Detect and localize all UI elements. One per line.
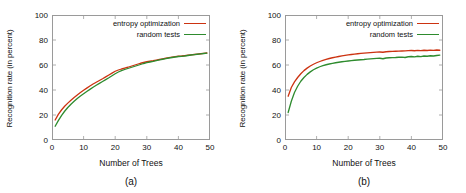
x-tick-label: 20: [111, 143, 120, 152]
x-axis-label-b: Number of Trees: [285, 158, 443, 168]
legend-label: random tests: [370, 30, 413, 39]
y-tick-label: 20: [39, 111, 48, 120]
y-axis-label-a: Recognition rate (in percent): [2, 18, 16, 138]
y-tick-label: 100: [35, 11, 48, 20]
y-tick-label: 80: [272, 36, 281, 45]
legend-entry: random tests: [137, 30, 206, 39]
legend-label: entropy optimization: [346, 19, 413, 28]
series-line-entropy-optimization: [55, 53, 207, 120]
x-tick-label: 20: [344, 143, 353, 152]
legend-entry: entropy optimization: [113, 19, 206, 28]
x-tick-label: 0: [50, 143, 54, 152]
legend-label: entropy optimization: [113, 19, 180, 28]
panel-b: Recognition rate (in percent) 0204060801…: [233, 0, 466, 193]
y-tick-label: 0: [44, 136, 48, 145]
legend-label: random tests: [137, 30, 180, 39]
x-tick-label: 50: [439, 143, 448, 152]
series-line-random-tests: [288, 55, 440, 112]
x-tick-label: 30: [142, 143, 151, 152]
x-tick-label: 10: [79, 143, 88, 152]
caption-a: (a): [52, 176, 210, 187]
x-tick-label: 0: [283, 143, 287, 152]
y-tick-label: 40: [272, 86, 281, 95]
y-axis-label-b: Recognition rate (in percent): [235, 18, 249, 138]
plot-area-a: 020406080100 01020304050 entropy optimiz…: [52, 15, 210, 140]
legend-color-swatch: [184, 34, 206, 35]
legend-entry: random tests: [370, 30, 439, 39]
legend-a: entropy optimizationrandom tests: [113, 19, 206, 39]
y-tick-label: 20: [272, 111, 281, 120]
x-tick-label: 50: [206, 143, 215, 152]
panel-a: Recognition rate (in percent) 0204060801…: [0, 0, 233, 193]
x-tick-label: 40: [407, 143, 416, 152]
legend-color-swatch: [417, 23, 439, 24]
legend-color-swatch: [417, 34, 439, 35]
y-tick-label: 0: [277, 136, 281, 145]
y-tick-label: 40: [39, 86, 48, 95]
plot-area-b: 020406080100 01020304050 entropy optimiz…: [285, 15, 443, 140]
x-tick-label: 10: [312, 143, 321, 152]
y-tick-label: 80: [39, 36, 48, 45]
caption-b: (b): [285, 176, 443, 187]
x-tick-label: 40: [174, 143, 183, 152]
y-tick-label: 60: [39, 61, 48, 70]
series-line-random-tests: [55, 53, 207, 126]
x-tick-label: 30: [375, 143, 384, 152]
figure-two-panel-line-charts: Recognition rate (in percent) 0204060801…: [0, 0, 466, 193]
legend-color-swatch: [184, 23, 206, 24]
y-tick-label: 60: [272, 61, 281, 70]
y-tick-label: 100: [268, 11, 281, 20]
x-axis-label-a: Number of Trees: [52, 158, 210, 168]
legend-entry: entropy optimization: [346, 19, 439, 28]
legend-b: entropy optimizationrandom tests: [346, 19, 439, 39]
